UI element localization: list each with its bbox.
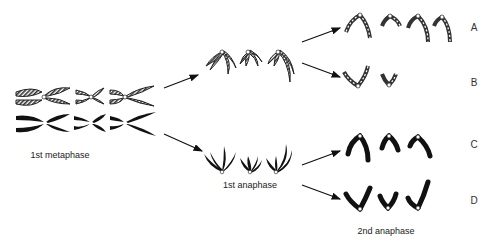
- chromosome-solid: [266, 144, 292, 174]
- anaphase-solid-row: [204, 144, 292, 174]
- outcome-label-a: A: [471, 22, 478, 33]
- outcome-b-chromosomes: [344, 66, 396, 88]
- arrow-to-outcome-b: [302, 63, 340, 77]
- anaphase-striped-row: [206, 50, 294, 82]
- outcome-label-c: C: [470, 139, 477, 150]
- chromosome-striped: [76, 88, 104, 104]
- chromosome-solid: [16, 114, 70, 132]
- chromosome-solid: [110, 112, 156, 136]
- chromosome-solid: [74, 114, 106, 132]
- chromosome-solid: [204, 146, 236, 174]
- arrow-to-outcome-d: [302, 185, 340, 199]
- stage-label-2nd-anaphase: 2nd anaphase: [357, 226, 414, 236]
- arrow-to-anaphase-solid: [164, 134, 202, 151]
- chromosome-solid: [240, 156, 262, 174]
- outcome-d-chromosomes: [346, 182, 428, 211]
- arrow-to-outcome-c: [302, 151, 340, 165]
- stage-label-1st-metaphase: 1st metaphase: [30, 150, 89, 160]
- chromosome-striped: [268, 50, 294, 82]
- stage-label-1st-anaphase: 1st anaphase: [223, 180, 277, 190]
- metaphase-striped-row: [16, 86, 154, 106]
- outcome-label-b: B: [471, 77, 478, 88]
- meiosis-diagram: 1st metaphase: [0, 0, 495, 244]
- arrow-to-anaphase-striped: [164, 75, 198, 88]
- metaphase-solid-row: [16, 112, 156, 136]
- chromosome-striped: [206, 50, 236, 74]
- chromosome-striped: [110, 86, 154, 106]
- outcome-label-d: D: [470, 195, 477, 206]
- arrow-to-outcome-a: [302, 28, 340, 42]
- outcome-c-chromosomes: [348, 134, 430, 160]
- outcome-a-chromosomes: [346, 13, 450, 42]
- chromosome-striped: [240, 50, 262, 66]
- chromosome-striped: [16, 88, 70, 106]
